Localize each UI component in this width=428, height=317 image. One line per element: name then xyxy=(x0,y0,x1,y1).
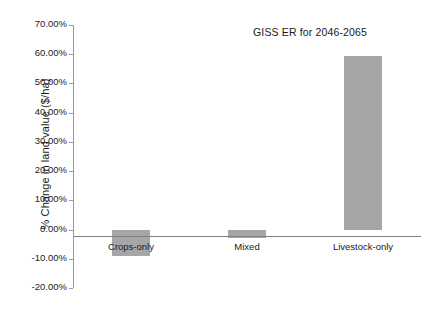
bar-chart: GISS ER for 2046-2065 % Change in land v… xyxy=(0,0,428,317)
y-tick-label: 70.00% xyxy=(9,18,67,29)
y-tick-label: 40.00% xyxy=(9,106,67,117)
y-tick-label: 60.00% xyxy=(9,47,67,58)
y-tick-mark xyxy=(69,142,73,143)
y-axis-label-text: % Change in land value ($/ha) xyxy=(39,79,51,230)
category-label-crops-only: Crops-only xyxy=(73,241,189,252)
y-tick-label: -20.00% xyxy=(9,281,67,292)
category-label-livestock-only: Livestock-only xyxy=(305,241,421,252)
category-label-mixed: Mixed xyxy=(189,241,305,252)
y-tick-mark xyxy=(69,259,73,260)
zero-line xyxy=(73,236,421,237)
y-tick-mark xyxy=(69,113,73,114)
y-tick-mark xyxy=(69,83,73,84)
y-tick-mark xyxy=(69,230,73,231)
plot-area: 70.00%60.00%50.00%40.00%30.00%20.00%10.0… xyxy=(73,25,421,288)
y-tick-label: 10.00% xyxy=(9,193,67,204)
y-tick-label: 30.00% xyxy=(9,135,67,146)
y-tick-mark xyxy=(69,200,73,201)
y-axis-label: % Change in land value ($/ha) xyxy=(35,39,51,269)
y-tick-label: 0.00% xyxy=(9,223,67,234)
y-tick-label: -10.00% xyxy=(9,252,67,263)
y-tick-label: 20.00% xyxy=(9,164,67,175)
bar-livestock-only xyxy=(344,56,382,230)
y-tick-label: 50.00% xyxy=(9,76,67,87)
y-tick-mark xyxy=(69,171,73,172)
y-tick-mark xyxy=(69,54,73,55)
y-tick-mark xyxy=(69,288,73,289)
y-tick-mark xyxy=(69,25,73,26)
